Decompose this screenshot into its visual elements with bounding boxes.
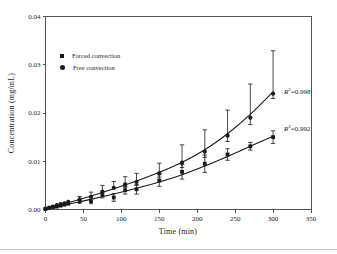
data-point-circle: [157, 171, 161, 175]
data-point-circle: [248, 116, 252, 120]
x-tick-label: 0: [44, 215, 48, 223]
chart-figure: 0501001502002503003500.000.010.020.030.0…: [0, 0, 337, 254]
plot-frame: [46, 17, 312, 210]
x-axis-title: Time (min): [20, 227, 336, 236]
r-squared-annotation-free: R2=0.998: [284, 88, 310, 96]
data-point-square: [180, 170, 184, 174]
data-point-circle: [180, 161, 184, 165]
error-bars-circle: [46, 51, 276, 209]
legend-label: Forced convection: [72, 52, 120, 59]
data-point-circle: [100, 190, 104, 194]
x-tick-label: 100: [116, 215, 127, 223]
data-point-circle: [112, 186, 116, 190]
data-point-circle: [134, 180, 138, 184]
data-point-circle: [66, 200, 70, 204]
data-point-square: [89, 200, 93, 204]
data-point-circle: [78, 197, 82, 201]
y-tick-label: 0.03: [28, 61, 41, 69]
data-point-circle: [59, 202, 63, 206]
data-point-circle: [43, 206, 47, 210]
r-squared-annotation-forced: R2=0.992: [284, 125, 310, 133]
r-squared-value: =0.998: [291, 88, 311, 96]
y-axis-title: Concentration (mg/mL): [7, 73, 16, 153]
page-divider: [0, 249, 337, 250]
x-tick-label: 50: [80, 215, 88, 223]
y-tick-label: 0.04: [28, 13, 41, 21]
data-point-square: [135, 187, 139, 191]
legend-item-forced-convection: Forced convection: [60, 52, 120, 59]
x-tick-label: 300: [268, 215, 279, 223]
data-point-circle: [62, 201, 66, 205]
data-point-square: [248, 144, 252, 148]
x-tick-label: 350: [306, 215, 317, 223]
x-tick-label: 200: [192, 215, 203, 223]
data-point-square: [112, 196, 116, 200]
data-point-circle: [225, 134, 229, 138]
x-tick-label: 250: [230, 215, 241, 223]
data-point-square: [157, 179, 161, 183]
r-squared-value: =0.992: [291, 125, 311, 133]
legend-label: Free convection: [73, 64, 115, 71]
data-point-circle: [123, 182, 127, 186]
data-point-circle: [51, 205, 55, 209]
y-tick-label: 0.02: [28, 109, 41, 117]
legend: Forced convection Free convection: [60, 52, 120, 71]
y-tick-label: 0.01: [28, 158, 41, 166]
y-tick-label: 0.00: [28, 206, 41, 214]
data-point-circle: [271, 92, 275, 96]
circle-marker-icon: [60, 65, 65, 70]
x-tick-label: 150: [154, 215, 165, 223]
data-point-circle: [47, 205, 51, 209]
data-point-circle: [89, 195, 93, 199]
data-point-square: [203, 162, 207, 166]
data-point-square: [123, 188, 127, 192]
data-point-circle: [55, 203, 59, 207]
data-point-circle: [203, 150, 207, 154]
fit-curve-circle: [46, 92, 274, 209]
legend-item-free-convection: Free convection: [60, 64, 120, 71]
square-marker-icon: [60, 54, 64, 58]
data-point-square: [226, 153, 230, 157]
data-point-square: [271, 135, 275, 139]
